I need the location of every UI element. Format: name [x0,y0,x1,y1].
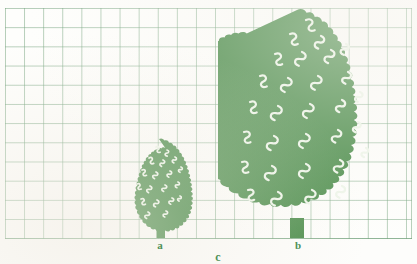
tree-comparison-figure: a b c [0,0,417,264]
small-tree-icon [126,134,196,242]
large-tree-trunk [290,218,304,238]
label-small-tree: a [150,240,170,251]
large-tree-icon [218,6,384,242]
large-tree-canopy [218,9,368,207]
label-span: c [208,251,228,263]
grid-right-edge [411,8,412,239]
label-large-tree: b [288,240,308,251]
small-tree-canopy [135,138,193,231]
